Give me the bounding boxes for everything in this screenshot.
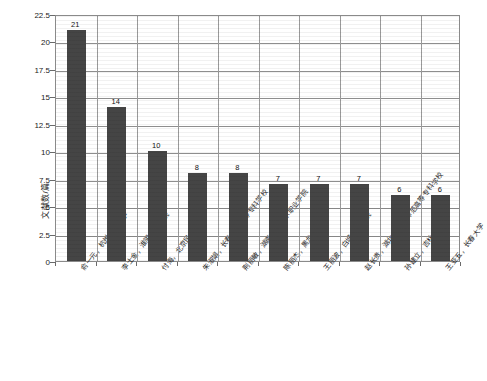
bar bbox=[350, 184, 369, 261]
gridline-vertical bbox=[299, 16, 300, 261]
y-tick-mark bbox=[50, 15, 55, 16]
bar-value-label: 7 bbox=[298, 174, 338, 183]
bar-value-label: 7 bbox=[258, 174, 298, 183]
gridline-vertical bbox=[380, 16, 381, 261]
bar bbox=[107, 107, 126, 261]
x-tick-mark bbox=[177, 262, 178, 266]
bar bbox=[148, 151, 167, 261]
x-tick-mark bbox=[339, 262, 340, 266]
x-tick-mark bbox=[136, 262, 137, 266]
y-tick-label: 10 bbox=[6, 148, 50, 157]
bar bbox=[188, 173, 207, 261]
y-tick-label: 2.5 bbox=[6, 230, 50, 239]
y-tick-label: 20 bbox=[6, 38, 50, 47]
gridline-vertical bbox=[97, 16, 98, 261]
y-tick-mark bbox=[50, 207, 55, 208]
gridline-horizontal bbox=[56, 71, 459, 72]
y-tick-label: 7.5 bbox=[6, 175, 50, 184]
gridline-vertical bbox=[178, 16, 179, 261]
gridline-vertical bbox=[137, 16, 138, 261]
y-tick-mark bbox=[50, 152, 55, 153]
bar bbox=[391, 195, 410, 261]
bar-value-label: 6 bbox=[379, 185, 419, 194]
bar-value-label: 21 bbox=[55, 20, 95, 29]
gridline-vertical bbox=[218, 16, 219, 261]
bar-value-label: 14 bbox=[96, 97, 136, 106]
y-axis: 02.557.51012.51517.52022.5 bbox=[0, 0, 50, 381]
y-tick-label: 22.5 bbox=[6, 11, 50, 20]
x-tick-mark bbox=[298, 262, 299, 266]
x-tick-mark bbox=[96, 262, 97, 266]
y-tick-label: 5 bbox=[6, 203, 50, 212]
y-tick-label: 17.5 bbox=[6, 65, 50, 74]
x-tick-mark bbox=[379, 262, 380, 266]
y-tick-mark bbox=[50, 97, 55, 98]
y-tick-mark bbox=[50, 125, 55, 126]
bar-value-label: 10 bbox=[136, 141, 176, 150]
y-tick-mark bbox=[50, 180, 55, 181]
gridline-vertical bbox=[259, 16, 260, 261]
bar-chart: 文献数/篇 02.557.51012.51517.52022.5 俞一元，杭州师… bbox=[0, 0, 487, 381]
bar-value-label: 7 bbox=[339, 174, 379, 183]
bar bbox=[269, 184, 288, 261]
gridline-horizontal bbox=[56, 43, 459, 44]
y-tick-mark bbox=[50, 42, 55, 43]
bar-value-label: 8 bbox=[177, 163, 217, 172]
y-tick-mark bbox=[50, 70, 55, 71]
x-tick-mark bbox=[217, 262, 218, 266]
x-tick-mark bbox=[420, 262, 421, 266]
bar-value-label: 8 bbox=[217, 163, 257, 172]
x-tick-mark bbox=[55, 262, 56, 266]
x-tick-mark bbox=[258, 262, 259, 266]
y-tick-label: 0 bbox=[6, 258, 50, 267]
gridline-vertical bbox=[421, 16, 422, 261]
bar bbox=[310, 184, 329, 261]
bar-value-label: 6 bbox=[420, 185, 460, 194]
y-tick-label: 12.5 bbox=[6, 120, 50, 129]
y-tick-label: 15 bbox=[6, 93, 50, 102]
plot-area bbox=[55, 15, 460, 262]
y-tick-mark bbox=[50, 235, 55, 236]
bar bbox=[229, 173, 248, 261]
bar bbox=[67, 30, 86, 261]
x-tick-mark bbox=[460, 262, 461, 266]
bar bbox=[431, 195, 450, 261]
gridline-vertical bbox=[340, 16, 341, 261]
